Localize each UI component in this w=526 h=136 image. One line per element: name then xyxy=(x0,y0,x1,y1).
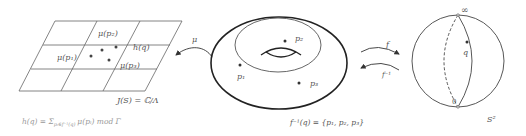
label-q: q xyxy=(463,48,468,57)
diagram-canvas: μ(p₂) μ(p₁) h(q) μ(p₃) J(S) = ℂ/Λ h(q) =… xyxy=(0,0,526,136)
label-p3: p₃ xyxy=(310,79,318,88)
label-p2: p₂ xyxy=(295,34,303,43)
mu-arrow xyxy=(176,48,212,57)
lattice-points xyxy=(90,46,118,62)
torus xyxy=(211,17,347,109)
sphere-caption: S² xyxy=(487,115,496,124)
label-f: f xyxy=(385,40,391,49)
label-mu-p3: μ(p₃) xyxy=(120,61,140,70)
label-mu: μ xyxy=(192,35,197,44)
label-mu-p2: μ(p₂) xyxy=(98,29,118,38)
f-arrow xyxy=(361,47,399,54)
label-f-inverse: f⁻¹ xyxy=(381,71,391,79)
label-mu-p1: μ(p₁) xyxy=(57,53,77,62)
label-h-q: h(q) xyxy=(133,43,150,52)
zero-point xyxy=(457,106,459,108)
abel-jacobi-formula: h(q) = Σpᵢ∈f⁻¹(q)μ(pᵢ) mod Γ xyxy=(22,117,122,128)
label-zero: 0 xyxy=(452,98,456,106)
torus-caption: f⁻¹(q) = {p₁, p₂, p₃} xyxy=(289,118,364,127)
label-infinity: ∞ xyxy=(461,5,469,15)
torus-points xyxy=(239,40,301,85)
jacobian-caption: J(S) = ℂ/Λ xyxy=(115,96,159,105)
f-inverse-arrow xyxy=(361,63,399,70)
label-p1: p₁ xyxy=(237,72,245,81)
q-point xyxy=(466,41,469,44)
riemann-sphere xyxy=(412,15,504,107)
infinity-point xyxy=(457,14,459,16)
